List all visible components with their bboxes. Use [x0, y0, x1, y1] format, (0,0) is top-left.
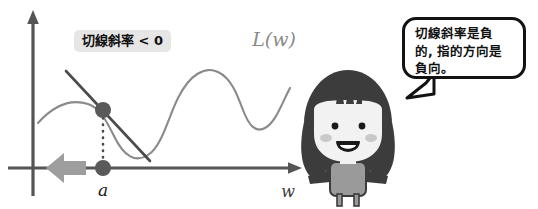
speech-line-3: 負向。 — [415, 60, 517, 78]
face — [314, 100, 382, 162]
axis-point-marker — [95, 160, 111, 176]
curve-label: L(w) — [251, 28, 296, 50]
left-leg — [337, 194, 342, 206]
right-eye — [359, 123, 366, 130]
speech-line-1: 切線斜率是負 — [415, 25, 517, 43]
right-blush — [365, 134, 377, 142]
speech-line-2: 的, 指的方向是 — [415, 43, 517, 61]
left-blush — [320, 134, 332, 142]
left-arrow-icon — [46, 153, 86, 183]
girl-character — [292, 66, 404, 209]
left-eye — [332, 123, 339, 130]
speech-bubble: 切線斜率是負 的, 指的方向是 負向。 — [402, 17, 526, 79]
tangent-point-marker — [95, 102, 111, 118]
point-label-a: a — [98, 180, 108, 200]
speech-bubble-text: 切線斜率是負 的, 指的方向是 負向。 — [415, 25, 517, 78]
right-leg — [354, 194, 359, 206]
y-axis-arrowhead — [27, 10, 39, 24]
figure-canvas: L(w) a w 切線斜率 < 0 — [0, 0, 538, 209]
body — [330, 162, 366, 196]
slope-annotation-tag: 切線斜率 < 0 — [74, 30, 171, 52]
